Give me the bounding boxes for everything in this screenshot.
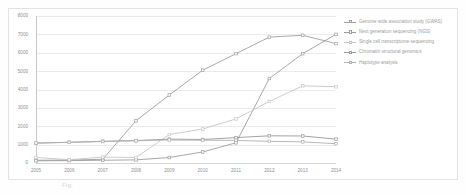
series-2 xyxy=(35,85,338,161)
data-point-marker xyxy=(101,159,104,162)
data-point-marker xyxy=(101,140,104,143)
data-point-marker xyxy=(201,69,204,72)
legend-swatch-icon xyxy=(344,60,356,65)
legend-swatch-icon xyxy=(344,40,356,45)
data-point-marker xyxy=(135,119,138,122)
y-axis-tick-label: 0 xyxy=(0,160,28,165)
legend-swatch-icon xyxy=(344,20,356,25)
data-point-marker xyxy=(301,141,304,144)
series-line xyxy=(36,140,336,144)
data-point-marker xyxy=(335,42,338,45)
data-point-marker xyxy=(301,34,304,37)
legend-item[interactable]: Single cell transcriptome sequencing xyxy=(344,37,460,47)
x-axis-tick-labels: 2005200620072008200920102011201220132014 xyxy=(36,166,336,178)
y-axis-tick-label: 1000 xyxy=(0,142,28,147)
data-point-marker xyxy=(268,135,271,138)
data-point-marker xyxy=(35,142,38,145)
chart-legend: Genome wide association study (GWAS)Next… xyxy=(344,17,460,68)
data-point-marker xyxy=(35,159,38,162)
series-3 xyxy=(35,135,338,145)
data-point-marker xyxy=(301,135,304,138)
data-point-marker xyxy=(235,139,238,142)
figure-caption: Fig. xyxy=(62,182,74,188)
data-point-marker xyxy=(35,156,38,159)
legend-item[interactable]: Chromatin structural genomics xyxy=(344,48,460,58)
data-point-marker xyxy=(268,140,271,143)
legend-item-label: Chromatin structural genomics xyxy=(359,50,421,55)
data-point-marker xyxy=(135,139,138,142)
legend-item-label: Haplotype analysis xyxy=(359,61,398,66)
x-axis-tick-label: 2009 xyxy=(164,168,174,173)
data-point-marker xyxy=(168,133,171,136)
y-axis-tick-label: 2000 xyxy=(0,124,28,129)
x-axis-tick-label: 2006 xyxy=(64,168,74,173)
x-axis-tick-label: 2011 xyxy=(231,168,241,173)
series-lines xyxy=(36,16,336,163)
data-point-marker xyxy=(335,142,338,145)
legend-item[interactable]: Next generation sequencing (NGS) xyxy=(344,27,460,37)
legend-swatch-icon xyxy=(344,50,356,55)
legend-item[interactable]: Haplotype analysis xyxy=(344,58,460,68)
data-point-marker xyxy=(235,118,238,121)
x-axis-tick-label: 2007 xyxy=(98,168,108,173)
data-point-marker xyxy=(201,128,204,131)
data-point-marker xyxy=(235,136,238,139)
legend-item-label: Next generation sequencing (NGS) xyxy=(359,30,431,35)
data-point-marker xyxy=(268,100,271,103)
x-axis-tick-label: 2014 xyxy=(331,168,341,173)
x-axis-tick-label: 2008 xyxy=(131,168,141,173)
data-point-marker xyxy=(335,33,338,36)
y-axis-tick-labels: 010002000300040005000600070008000 xyxy=(0,0,36,180)
data-point-marker xyxy=(135,156,138,159)
chart-figure: 010002000300040005000600070008000 200520… xyxy=(0,0,466,195)
data-point-marker xyxy=(168,156,171,159)
data-point-marker xyxy=(101,156,104,159)
x-axis-tick-label: 2005 xyxy=(31,168,41,173)
legend-item[interactable]: Genome wide association study (GWAS) xyxy=(344,17,460,27)
data-point-marker xyxy=(201,151,204,154)
data-point-marker xyxy=(168,139,171,142)
data-point-marker xyxy=(268,36,271,39)
data-point-marker xyxy=(68,158,71,161)
data-point-marker xyxy=(235,52,238,55)
x-axis-tick-label: 2010 xyxy=(198,168,208,173)
data-point-marker xyxy=(301,85,304,88)
data-point-marker xyxy=(68,141,71,144)
data-point-marker xyxy=(168,94,171,97)
data-point-marker xyxy=(201,139,204,142)
data-point-marker xyxy=(335,138,338,141)
series-1 xyxy=(35,33,338,162)
y-axis-tick-label: 4000 xyxy=(0,87,28,92)
y-axis-tick-label: 6000 xyxy=(0,50,28,55)
series-line xyxy=(36,86,336,160)
x-axis-tick-label: 2013 xyxy=(298,168,308,173)
legend-item-label: Genome wide association study (GWAS) xyxy=(359,20,442,25)
legend-item-label: Single cell transcriptome sequencing xyxy=(359,40,434,45)
data-point-marker xyxy=(335,85,338,88)
data-point-marker xyxy=(301,52,304,55)
legend-swatch-icon xyxy=(344,30,356,35)
data-point-marker xyxy=(268,77,271,80)
y-axis-tick-label: 8000 xyxy=(0,13,28,18)
y-axis-tick-label: 7000 xyxy=(0,32,28,37)
x-axis-tick-label: 2012 xyxy=(264,168,274,173)
y-axis-tick-label: 5000 xyxy=(0,69,28,74)
gridline xyxy=(36,163,336,164)
y-axis-tick-label: 3000 xyxy=(0,105,28,110)
